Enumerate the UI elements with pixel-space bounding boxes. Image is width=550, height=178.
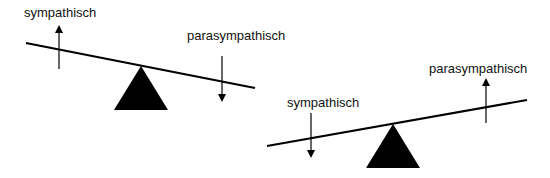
fulcrum-triangle [366, 124, 420, 168]
label-sympathisch: sympathisch [287, 96, 359, 110]
balance-diagram [0, 0, 550, 178]
label-sympathisch: sympathisch [24, 6, 96, 20]
label-parasympathisch: parasympathisch [187, 29, 285, 43]
fulcrum-triangle [114, 66, 168, 110]
label-parasympathisch: parasympathisch [429, 62, 527, 76]
